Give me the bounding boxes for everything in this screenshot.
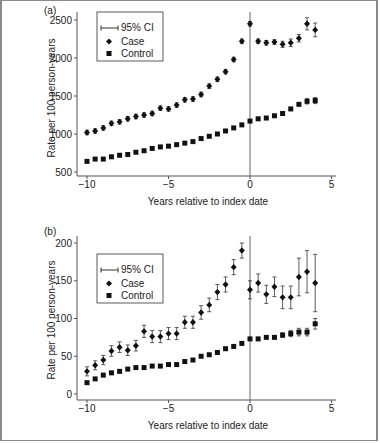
control-point [215,132,220,137]
control-point [85,380,90,385]
case-point [247,21,253,27]
control-point [248,119,253,124]
x-tick-label: −5 [163,403,175,414]
control-point [264,116,269,121]
legend-control-label: Control [121,48,153,59]
legend-ci-label: 95% CI [121,22,154,33]
case-point [288,40,294,46]
case-point [198,309,204,315]
case-point [263,40,269,46]
y-tick-label: 200 [55,238,72,249]
case-point [117,344,123,350]
control-point [264,335,269,340]
case-point [255,280,261,286]
control-point [150,364,155,369]
control-point [125,367,130,372]
control-point [125,152,130,157]
y-tick-label: 2500 [50,15,73,26]
case-point [280,294,286,300]
control-point [166,144,171,149]
case-point [157,333,163,339]
case-point [198,91,204,97]
y-tick-label: 150 [55,275,72,286]
panel-a-legend: 95% CI Case Control [97,12,163,61]
control-point [207,134,212,139]
y-tick-label: 100 [55,313,72,324]
legend-case-label: Case [121,36,145,47]
control-point [199,354,204,359]
case-point [190,319,196,325]
case-point [304,268,310,274]
control-point [313,98,318,103]
control-point [166,362,171,367]
control-point [190,139,195,144]
control-point [133,365,138,370]
x-tick-label: 0 [247,403,253,414]
case-point [247,287,253,293]
control-point [93,376,98,381]
case-point [108,120,114,126]
control-point [223,346,228,351]
case-point [214,76,220,82]
control-point [142,148,147,153]
case-point [108,348,114,354]
case-point [92,128,98,134]
case-point [141,328,147,334]
control-point [296,330,301,335]
control-point [256,116,261,121]
case-point [166,330,172,336]
case-point [206,302,212,308]
control-point [85,159,90,164]
control-point [288,106,293,111]
case-point [231,56,237,62]
control-point [158,144,163,149]
case-point [255,38,261,44]
control-point [223,128,228,133]
case-point [304,21,310,27]
case-point [271,284,277,290]
case-point [280,41,286,47]
control-point [101,157,106,162]
control-point [296,102,301,107]
case-point [133,342,139,348]
control-point [150,146,155,151]
control-point [158,364,163,369]
control-point [256,336,261,341]
case-point [312,280,318,286]
case-point [296,35,302,41]
case-point [92,362,98,368]
control-point [305,330,310,335]
case-point [157,105,163,111]
case-point [182,319,188,325]
case-point [133,113,139,119]
y-tick-label: 1500 [50,91,73,102]
control-point [174,142,179,147]
control-point [117,153,122,158]
case-point [149,110,155,116]
case-point [288,294,294,300]
case-point [239,247,245,253]
case-point [190,96,196,102]
case-point [182,97,188,103]
case-point [84,129,90,135]
case-point [166,106,172,112]
y-tick-label: 0 [66,389,72,400]
x-tick-label: −5 [163,179,175,190]
control-point [190,358,195,363]
case-point [312,27,318,33]
figure-canvas: (a) Years relative to index date Rate pe… [0,0,380,443]
case-point [117,119,123,125]
panel-a-xlabel: Years relative to index date [148,196,269,207]
case-point [149,333,155,339]
case-point [125,116,131,122]
control-point [117,369,122,374]
legend-ci-label: 95% CI [121,264,154,275]
case-point [263,291,269,297]
case-point [231,264,237,270]
control-point [280,111,285,116]
case-point [223,281,229,287]
case-point [296,274,302,280]
control-point [182,141,187,146]
control-point [239,341,244,346]
control-point [133,150,138,155]
